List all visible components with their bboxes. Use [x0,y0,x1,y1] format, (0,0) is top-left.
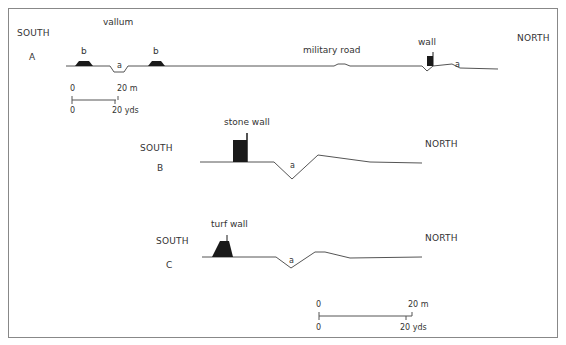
south-label-a: SOUTH [17,28,50,38]
mound-right-label: b [153,46,159,56]
mound-right [148,61,165,66]
north-label-b: NORTH [425,139,458,149]
scale-bottom-yd-zero: 0 [316,323,321,332]
scale-bar-top [72,96,118,104]
profile-label-c: C [166,260,172,270]
profile-c-ground [202,252,422,268]
scale-top-yd-end: 20 yds [112,106,139,115]
wall-a-label: wall [418,37,436,47]
profile-label-b: B [157,163,163,173]
scale-bottom-yd-end: 20 yds [400,323,427,332]
scale-bottom-m-zero: 0 [316,300,321,309]
wall-b [233,140,247,162]
scale-top-m-zero: 0 [70,84,75,93]
mound-left [75,61,93,66]
south-label-b: SOUTH [140,143,173,153]
mound-left-label: b [81,46,87,56]
vallum-ditch-label: a [117,61,122,70]
ditch-b-label: a [290,161,295,170]
profile-label-a: A [29,52,35,62]
north-label-a: NORTH [517,33,550,43]
north-label-c: NORTH [425,233,458,243]
wall-a [427,56,433,66]
turf-wall-label: turf wall [211,219,248,229]
stone-wall-label: stone wall [224,117,270,127]
wall-c [212,241,233,257]
south-label-c: SOUTH [156,236,189,246]
scale-top-m-end: 20 m [117,84,138,93]
vallum-label: vallum [103,17,133,27]
ditch-c-label: a [289,256,294,265]
scale-bottom-m-end: 20 m [408,300,429,309]
military-road-label: military road [303,45,360,55]
scale-bar-bottom [319,312,412,320]
north-ditch-label: a [455,60,460,69]
scale-top-yd-zero: 0 [70,106,75,115]
